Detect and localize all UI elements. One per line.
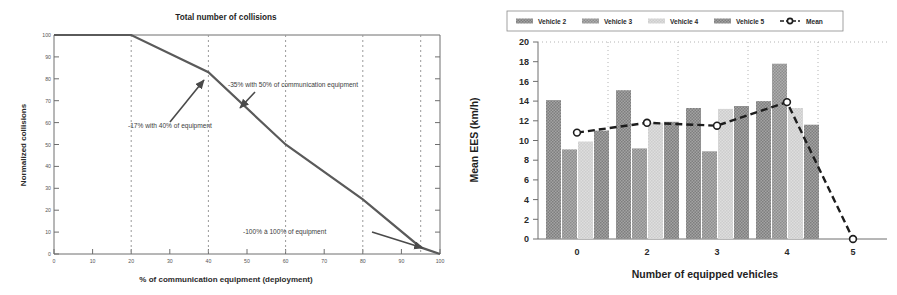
- svg-text:6: 6: [524, 175, 529, 185]
- mean-ees-chart-panel: Vehicle 2 Vehicle 3 Vehicle 4 Vehicle 5: [450, 0, 897, 295]
- svg-text:90: 90: [399, 258, 405, 264]
- svg-text:60: 60: [283, 258, 289, 264]
- svg-text:10: 10: [45, 229, 51, 235]
- annotation-35-percent: -35% with 50% of communication equipment: [228, 81, 358, 108]
- svg-text:100: 100: [436, 258, 445, 264]
- x-tick-3: 3: [714, 247, 719, 257]
- annotation-100-text: -100% à 100% of equipment: [243, 228, 326, 236]
- svg-text:8: 8: [524, 155, 529, 165]
- bar-vehicle-5[interactable]: [664, 122, 679, 239]
- y-axis-title: Mean EES (km/h): [468, 97, 480, 182]
- mean-marker-5[interactable]: [850, 236, 857, 243]
- svg-text:14: 14: [519, 96, 529, 106]
- legend-label-vehicle-3: Vehicle 3: [604, 18, 633, 25]
- svg-text:0: 0: [48, 251, 51, 257]
- annotation-17-arrow: [170, 80, 204, 122]
- svg-text:100: 100: [42, 32, 51, 38]
- collisions-series-line: [54, 35, 440, 254]
- annotation-17-percent: -17% with 40% of equipment: [128, 80, 212, 130]
- mean-marker-3[interactable]: [714, 122, 721, 129]
- collisions-chart-svg: Total number of collisions 0 10 20 30 40…: [0, 0, 450, 295]
- mean-ees-chart-svg: Vehicle 2 Vehicle 3 Vehicle 4 Vehicle 5: [450, 0, 897, 295]
- svg-text:50: 50: [244, 258, 250, 264]
- svg-text:90: 90: [45, 54, 51, 60]
- bar-vehicle-4[interactable]: [578, 142, 593, 240]
- chart-title: Total number of collisions: [175, 13, 277, 22]
- svg-text:2: 2: [524, 215, 529, 225]
- legend-swatch-vehicle-3: [582, 19, 599, 24]
- svg-text:20: 20: [45, 207, 51, 213]
- bars-group-0: [546, 100, 609, 239]
- svg-text:20: 20: [128, 258, 134, 264]
- bar-vehicle-3[interactable]: [632, 148, 647, 239]
- bar-vehicle-4[interactable]: [718, 109, 733, 239]
- svg-text:4: 4: [524, 195, 529, 205]
- bar-vehicle-2[interactable]: [686, 108, 701, 239]
- svg-text:70: 70: [45, 98, 51, 104]
- annotation-17-text: -17% with 40% of equipment: [128, 122, 212, 130]
- legend-swatch-mean-marker: [787, 18, 792, 23]
- annotation-100-arrow: [372, 232, 423, 248]
- bar-vehicle-4[interactable]: [788, 108, 803, 239]
- svg-text:0: 0: [524, 234, 529, 244]
- svg-text:18: 18: [519, 57, 529, 67]
- svg-text:20: 20: [519, 37, 529, 47]
- bar-vehicle-2[interactable]: [616, 90, 631, 239]
- svg-text:16: 16: [519, 77, 529, 87]
- svg-text:40: 40: [206, 258, 212, 264]
- mean-marker-0[interactable]: [574, 129, 581, 136]
- svg-text:0: 0: [53, 258, 56, 264]
- legend-swatch-vehicle-4: [648, 19, 665, 24]
- x-tick-4: 4: [784, 247, 789, 257]
- annotation-100-percent: -100% à 100% of equipment: [243, 228, 423, 248]
- annotation-35-arrow: [240, 92, 255, 108]
- legend-label-vehicle-2: Vehicle 2: [538, 18, 567, 25]
- svg-text:30: 30: [45, 185, 51, 191]
- svg-text:80: 80: [45, 76, 51, 82]
- legend-label-vehicle-5: Vehicle 5: [736, 18, 765, 25]
- legend-label-mean: Mean: [806, 18, 823, 25]
- svg-text:10: 10: [519, 136, 529, 146]
- legend-swatch-vehicle-5: [714, 19, 731, 24]
- svg-text:80: 80: [360, 258, 366, 264]
- svg-text:70: 70: [321, 258, 327, 264]
- x-tick-0: 0: [574, 247, 579, 257]
- bar-vehicle-5[interactable]: [734, 106, 749, 239]
- bar-vehicle-3[interactable]: [562, 149, 577, 239]
- figure-container: Total number of collisions 0 10 20 30 40…: [0, 0, 897, 295]
- bar-vehicle-2[interactable]: [756, 101, 771, 239]
- mean-marker-4[interactable]: [784, 99, 791, 106]
- svg-text:40: 40: [45, 163, 51, 169]
- collisions-chart-panel: Total number of collisions 0 10 20 30 40…: [0, 0, 450, 295]
- reference-lines: [131, 35, 421, 254]
- legend: Vehicle 2 Vehicle 3 Vehicle 4 Vehicle 5: [507, 11, 843, 31]
- bar-vehicle-4[interactable]: [648, 123, 663, 239]
- bar-vehicle-5[interactable]: [594, 131, 609, 239]
- y-axis-ticks: 0 10 20 30 40 50 60 70 80 90 100: [42, 32, 440, 257]
- annotation-35-text: -35% with 50% of communication equipment: [228, 81, 358, 89]
- x-tick-5: 5: [850, 247, 855, 257]
- plot-axes: [54, 35, 440, 254]
- svg-text:30: 30: [167, 258, 173, 264]
- x-axis-ticks: 0 10 20 30 40 50 60 70 80 90 100: [53, 249, 445, 264]
- mean-marker-2[interactable]: [644, 119, 651, 126]
- y-axis-title: Normalized collisions: [19, 103, 28, 186]
- svg-text:60: 60: [45, 120, 51, 126]
- bars-group-2: [616, 90, 679, 239]
- x-axis-title: Number of equipped vehicles: [632, 268, 779, 280]
- svg-text:10: 10: [90, 258, 96, 264]
- x-axis-categories: 0 2 3 4 5: [574, 247, 855, 257]
- x-tick-2: 2: [644, 247, 649, 257]
- bar-vehicle-3[interactable]: [702, 151, 717, 239]
- bar-vehicle-3[interactable]: [772, 64, 787, 239]
- x-axis-title: % of communication equipment (deployment…: [139, 275, 313, 284]
- svg-text:12: 12: [519, 116, 529, 126]
- legend-label-vehicle-4: Vehicle 4: [670, 18, 699, 25]
- svg-text:50: 50: [45, 142, 51, 148]
- bar-vehicle-2[interactable]: [546, 100, 561, 239]
- y-axis-ticks: 0 2 4 6 8 10 12 14 16 18 20: [519, 37, 538, 244]
- legend-swatch-vehicle-2: [516, 19, 533, 24]
